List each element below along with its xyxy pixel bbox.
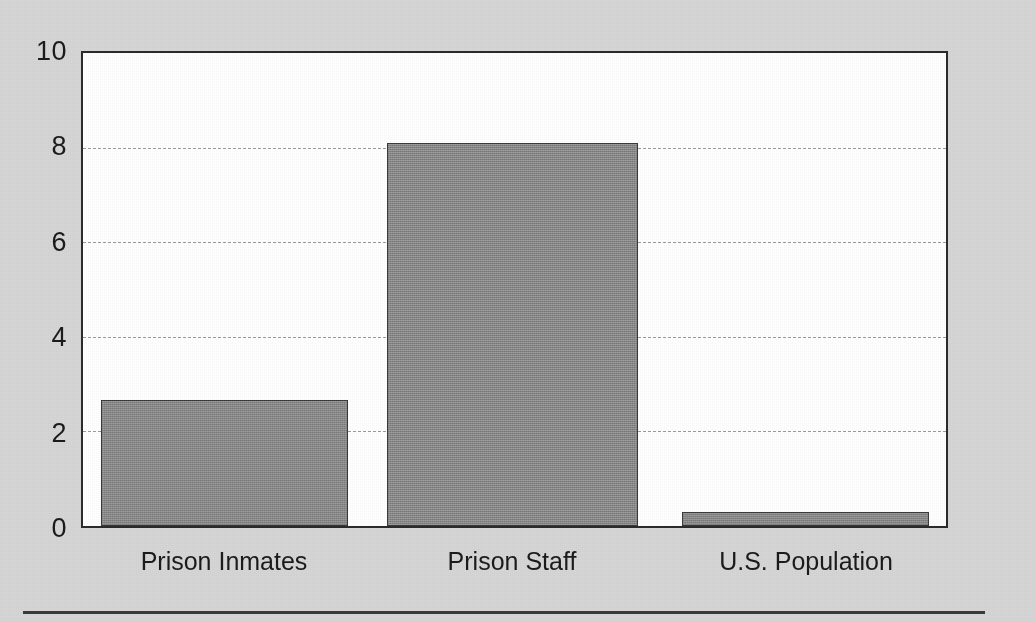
plot-area — [81, 51, 948, 528]
bar-us-population — [682, 512, 929, 526]
x-tick-label-us-population: U.S. Population — [719, 545, 893, 578]
x-tick-label-prison-staff: Prison Staff — [448, 545, 577, 578]
y-axis: 10 8 6 4 2 0 — [0, 0, 81, 622]
x-tick-label-prison-inmates: Prison Inmates — [141, 545, 308, 578]
y-tick-label: 8 — [51, 133, 67, 160]
bar-series — [83, 53, 946, 526]
y-tick-label: 10 — [36, 38, 67, 65]
bar-chart-figure: 10 8 6 4 2 0 Prison Inmates Prison Staff… — [0, 0, 1035, 622]
x-axis: Prison Inmates Prison Staff U.S. Populat… — [0, 545, 1035, 585]
y-tick-label: 0 — [51, 515, 67, 542]
bar-prison-inmates — [101, 400, 348, 526]
y-tick-label: 2 — [51, 420, 67, 447]
bar-prison-staff — [387, 143, 638, 526]
y-tick-label: 6 — [51, 229, 67, 256]
footer-divider — [23, 611, 985, 614]
y-tick-label: 4 — [51, 324, 67, 351]
